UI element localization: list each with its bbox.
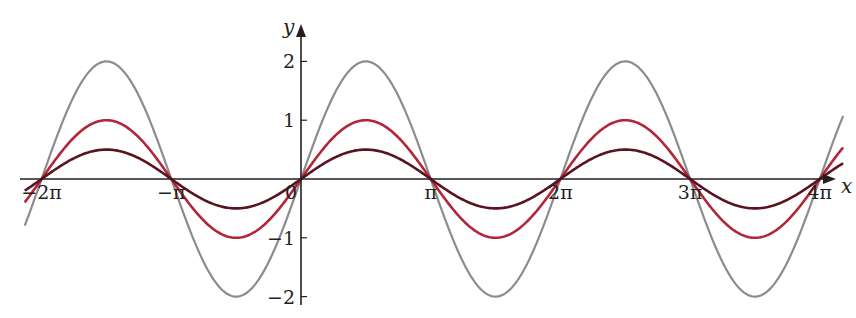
x-tick-label: 3π: [678, 181, 703, 203]
x-tick-label: −π: [157, 181, 185, 203]
x-tick-label: 2π: [548, 181, 573, 203]
y-tick-label: −2: [267, 286, 295, 308]
x-tick-label: 0: [285, 181, 297, 203]
x-axis-label: x: [841, 174, 852, 198]
sine-chart: x y −2π−π0π2π3π4π21−1−2: [0, 0, 856, 318]
y-tick-label: 2: [283, 50, 295, 72]
y-axis-label: y: [282, 15, 295, 39]
y-tick-label: 1: [283, 109, 295, 131]
x-tick-label: −2π: [21, 181, 62, 203]
y-axis-arrow-icon: [296, 24, 306, 37]
x-tick-label: 4π: [808, 181, 833, 203]
y-tick-label: −1: [267, 227, 295, 249]
x-tick-label: π: [424, 181, 437, 203]
